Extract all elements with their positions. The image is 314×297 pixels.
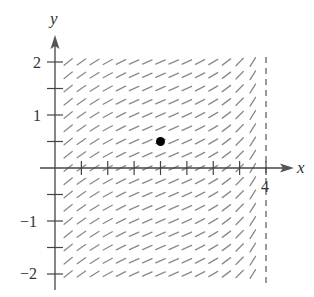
slope-segment xyxy=(116,113,125,118)
y-tick-label-minus-1: −1 xyxy=(20,213,37,230)
slope-segment xyxy=(116,73,125,78)
slope-segment xyxy=(116,60,125,65)
slope-segment xyxy=(195,60,204,65)
slope-segment xyxy=(209,139,218,144)
slope-segment xyxy=(143,153,153,157)
slope-segment xyxy=(116,219,125,224)
slope-segment xyxy=(236,244,243,251)
slope-segment xyxy=(103,59,112,64)
slope-segment xyxy=(195,139,204,144)
slope-segment xyxy=(77,99,86,105)
slope-segment xyxy=(222,59,230,65)
slope-segment xyxy=(143,272,153,276)
slope-segment xyxy=(90,218,99,223)
slope-segment xyxy=(129,73,138,77)
slope-segment xyxy=(182,272,191,276)
initial-points xyxy=(156,137,165,146)
slope-segment xyxy=(236,111,243,118)
slope-segment xyxy=(222,99,230,105)
slope-segment xyxy=(64,205,72,211)
slope-segment xyxy=(116,258,125,263)
slope-segment xyxy=(222,112,230,118)
slope-segment xyxy=(195,192,204,197)
slope-segment xyxy=(116,192,125,197)
slope-segment xyxy=(236,151,243,158)
slope-segment xyxy=(77,59,86,65)
slope-segment xyxy=(169,73,179,77)
slope-segment xyxy=(209,86,218,91)
slope-segment xyxy=(77,218,86,224)
slope-segment xyxy=(129,126,138,130)
slope-segment xyxy=(236,72,243,79)
slope-segment xyxy=(250,150,256,159)
slope-segment xyxy=(143,245,153,249)
slope-segment xyxy=(156,206,166,210)
slope-segment xyxy=(209,126,218,131)
slope-segment xyxy=(77,258,86,264)
slope-segment xyxy=(236,125,243,132)
slope-segment xyxy=(103,192,112,197)
slope-segment xyxy=(116,126,125,131)
slope-segment xyxy=(77,125,86,131)
slope-segment xyxy=(156,245,166,249)
slope-segment xyxy=(143,206,153,210)
slope-segment xyxy=(250,270,256,279)
slope-segment xyxy=(156,126,166,130)
slope-segment xyxy=(103,126,112,131)
slope-segment xyxy=(156,259,166,263)
slope-segment xyxy=(236,138,243,145)
slope-segment xyxy=(129,259,138,263)
slope-segment xyxy=(182,153,191,157)
slope-segment xyxy=(116,245,125,250)
slope-segment xyxy=(129,86,138,90)
slope-segment xyxy=(209,245,218,250)
slope-segment xyxy=(195,99,204,104)
slope-segment xyxy=(143,73,153,77)
slope-segment xyxy=(222,205,230,211)
slope-segment xyxy=(195,258,204,263)
slope-segment xyxy=(222,178,230,184)
slope-segment xyxy=(250,230,256,239)
slope-segment xyxy=(64,191,72,197)
slope-segment xyxy=(250,58,256,67)
slope-segment xyxy=(222,152,230,158)
slope-segment xyxy=(64,125,72,131)
slope-segment xyxy=(195,245,204,250)
slope-segment xyxy=(156,219,166,223)
slope-segment xyxy=(129,272,138,276)
slope-segment xyxy=(90,99,99,104)
slope-segment xyxy=(143,219,153,223)
slope-segment xyxy=(156,100,166,104)
slope-segment xyxy=(222,218,230,224)
slope-segment xyxy=(195,232,204,237)
slope-segment xyxy=(129,179,138,183)
slope-segment xyxy=(182,86,191,90)
slope-segment xyxy=(90,112,99,117)
slope-segment xyxy=(77,205,86,211)
slope-segment xyxy=(209,152,218,157)
slope-segment xyxy=(77,271,86,277)
slope-segment xyxy=(116,232,125,237)
slope-segment xyxy=(250,177,256,186)
slope-segment xyxy=(90,86,99,91)
slope-segment xyxy=(250,124,256,133)
slope-segment xyxy=(90,59,99,64)
slope-segment xyxy=(222,271,230,277)
slope-segment xyxy=(182,192,191,196)
slope-segment xyxy=(90,152,99,157)
slope-segment xyxy=(90,73,99,78)
slope-segment xyxy=(169,179,179,183)
slope-segment xyxy=(64,152,72,158)
slope-segment xyxy=(143,126,153,130)
slope-segment xyxy=(250,71,256,80)
slope-segment xyxy=(222,138,230,144)
slope-segment xyxy=(236,58,243,65)
slope-segment xyxy=(236,231,243,238)
slope-segment xyxy=(64,85,72,91)
slope-segment xyxy=(209,205,218,210)
slope-segment xyxy=(250,137,256,146)
slope-segment xyxy=(129,219,138,223)
slope-segment xyxy=(250,203,256,212)
slope-segment xyxy=(195,272,204,277)
slope-segment xyxy=(64,258,72,264)
